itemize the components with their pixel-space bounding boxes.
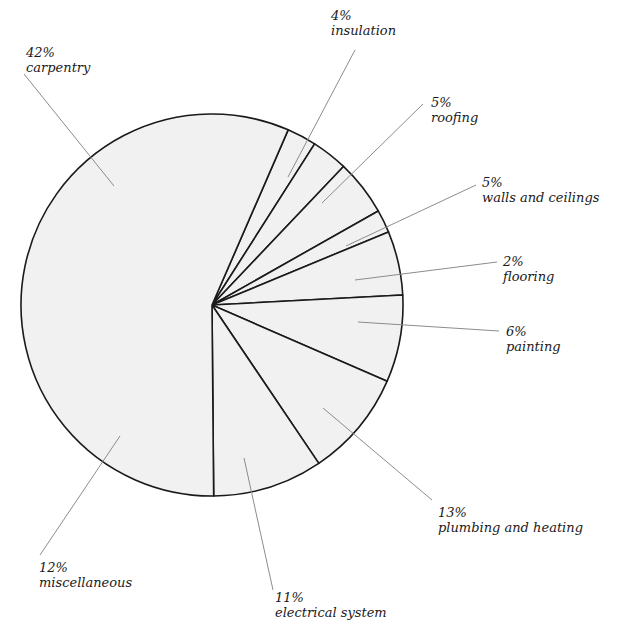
slice-percent: 12% [39, 560, 132, 575]
slice-percent: 13% [438, 505, 583, 520]
slice-percent: 42% [26, 45, 90, 60]
slice-name: miscellaneous [39, 575, 132, 590]
slice-percent: 5% [431, 95, 478, 110]
slice-name: carpentry [26, 60, 90, 75]
slice-label-carpentry: 42%carpentry [26, 45, 90, 75]
slice-label-roofing: 5%roofing [431, 95, 478, 125]
slice-label-flooring: 2%flooring [503, 254, 554, 284]
slice-name: painting [506, 339, 561, 354]
slice-percent: 5% [482, 175, 599, 190]
slice-name: insulation [331, 23, 396, 38]
slice-name: roofing [431, 110, 478, 125]
slice-percent: 11% [275, 590, 387, 605]
slice-name: flooring [503, 269, 554, 284]
pie-slices [21, 114, 403, 496]
slice-percent: 2% [503, 254, 554, 269]
slice-label-painting: 6%painting [506, 324, 561, 354]
slice-name: plumbing and heating [438, 520, 583, 535]
slice-label-walls-and-ceilings: 5%walls and ceilings [482, 175, 599, 205]
slice-percent: 4% [331, 8, 396, 23]
slice-label-miscellaneous: 12%miscellaneous [39, 560, 132, 590]
slice-label-insulation: 4%insulation [331, 8, 396, 38]
leader-line-miscellaneous [40, 436, 120, 555]
pie-chart [0, 0, 622, 640]
leader-line-roofing [322, 104, 423, 203]
slice-label-plumbing-and-heating: 13%plumbing and heating [438, 505, 583, 535]
slice-name: electrical system [275, 605, 387, 620]
slice-label-electrical-system: 11%electrical system [275, 590, 387, 620]
slice-name: walls and ceilings [482, 190, 599, 205]
leader-line-plumbing-and-heating [323, 408, 432, 500]
leader-line-carpentry [24, 74, 114, 186]
slice-percent: 6% [506, 324, 561, 339]
